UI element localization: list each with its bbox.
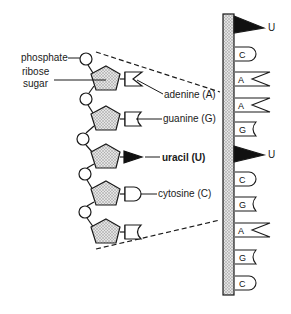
ribose-sugar [91, 66, 120, 90]
phosphate-circle [79, 206, 91, 218]
strand-base-letter: C [239, 175, 246, 185]
phosphate-circle [80, 93, 92, 105]
uracil-base [234, 146, 264, 162]
strand-base-letter: G [239, 200, 246, 210]
phosphate-label: phosphate [21, 52, 68, 63]
phosphate-circle [80, 53, 92, 65]
ribose-sugar [91, 144, 120, 168]
strand-base-letter: A [238, 75, 244, 85]
uracil-outside-label: U [268, 149, 275, 160]
strand-base-letter: G [239, 253, 246, 263]
guanine-base [125, 225, 141, 239]
ribose-sugar [91, 106, 120, 130]
phosphate-circle [79, 168, 91, 180]
uracil-base [234, 16, 264, 33]
left-chain [77, 53, 142, 243]
sugar-label: sugar [23, 78, 49, 89]
ribose-sugar [91, 219, 120, 243]
guanine-label: guanine (G) [163, 113, 216, 124]
rna-structure-diagram: phosphate ribose sugar adenine (A) guani… [0, 0, 291, 314]
uracil-base [124, 151, 142, 163]
strand-base-letter: A [238, 101, 244, 111]
strand-base-letter: G [239, 125, 246, 135]
cytosine-base [125, 187, 141, 201]
ribose-label: ribose [22, 66, 50, 77]
adenine-label: adenine (A) [164, 89, 216, 100]
adenine-base [125, 72, 142, 86]
phosphate-circle [77, 133, 89, 145]
rna-backbone [223, 14, 234, 295]
strand-base-letter: C [239, 50, 246, 60]
ribose-sugar [91, 181, 120, 205]
uracil-label: uracil (U) [162, 152, 205, 163]
cytosine-label: cytosine (C) [158, 188, 211, 199]
strand-base-letter: A [238, 226, 244, 236]
uracil-outside-label: U [268, 22, 275, 33]
strand-base-letter: C [239, 279, 246, 289]
